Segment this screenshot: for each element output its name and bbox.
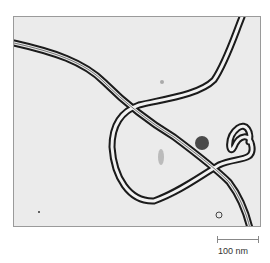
scale-bar-line	[217, 239, 259, 240]
scale-bar-tick-right	[258, 236, 259, 243]
electron-micrograph	[13, 16, 261, 227]
scale-bar-label: 100 nm	[218, 246, 248, 256]
scale-bar	[217, 236, 259, 244]
